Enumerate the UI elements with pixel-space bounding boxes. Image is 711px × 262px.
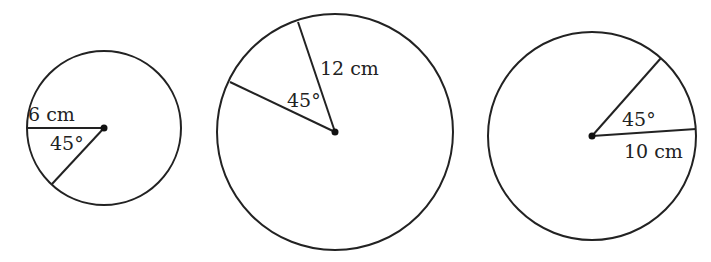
circle-3-radius-label: 10 cm — [624, 140, 683, 162]
circle-1-angle-label: 45° — [50, 132, 84, 154]
circle-3-angle-label: 45° — [622, 108, 656, 130]
circle-3-group: 10 cm 45° — [488, 32, 696, 240]
circle-3-radius-a — [592, 129, 696, 136]
circle-1-center-dot — [101, 125, 108, 132]
circle-2-group: 12 cm 45° — [217, 14, 453, 250]
circle-2-angle-label: 45° — [287, 89, 321, 111]
circle-sector-diagram: 6 cm 45° 12 cm 45° 10 cm 45° — [0, 0, 711, 262]
circle-1-group: 6 cm 45° — [27, 51, 181, 205]
circle-2-center-dot — [332, 129, 339, 136]
circle-3-center-dot — [589, 133, 596, 140]
circle-1-radius-label: 6 cm — [28, 103, 75, 125]
circle-2-radius-label: 12 cm — [320, 57, 379, 79]
